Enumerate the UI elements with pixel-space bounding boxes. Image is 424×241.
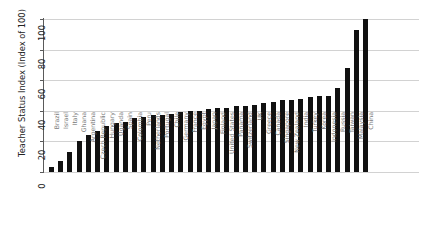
x-tick-label: Panama <box>238 112 244 174</box>
x-tick-label: Ghana <box>81 112 87 174</box>
x-tick-label: Switzerland <box>247 112 253 174</box>
y-tick-label-40: 40 <box>37 112 47 138</box>
x-tick-label: Egypt <box>201 112 207 174</box>
x-tick-label: Italy <box>72 112 78 174</box>
x-tick-label: United States <box>229 112 235 174</box>
x-tick-label: Hungary <box>109 112 115 174</box>
x-tick-label: France <box>192 112 198 174</box>
x-tick-label: Greece <box>266 112 272 174</box>
x-tick-label: Indonesia <box>331 112 337 174</box>
x-tick-label: New Zealand <box>294 112 300 174</box>
y-tick-label-20: 20 <box>37 142 47 168</box>
x-tick-label: Brazil <box>54 112 60 174</box>
x-tick-label: Spain <box>127 112 133 174</box>
x-tick-label: Turkey <box>312 112 318 174</box>
y-tick-label-0: 0 <box>37 173 47 199</box>
x-tick-label: Canada <box>275 112 281 174</box>
x-tick-label: Korea <box>321 112 327 174</box>
teacher-status-index-bar-chart: Teacher Status Index (Index of 100) Braz… <box>0 0 424 241</box>
x-tick-label: Netherlands <box>155 112 161 174</box>
x-tick-label: Singapore <box>284 112 290 174</box>
x-tick-label: Japan <box>211 112 217 174</box>
x-tick-label: Germany <box>183 112 189 174</box>
x-tick-label: Taiwan <box>349 112 355 174</box>
x-tick-label: India <box>303 112 309 174</box>
x-tick-label: Finland <box>220 112 226 174</box>
y-axis-title: Teacher Status Index (Index of 100) <box>17 3 27 163</box>
x-tick-label: Czech Republic <box>100 112 106 174</box>
x-tick-label: Russia <box>340 112 346 174</box>
x-axis-tick-labels: BrazilIsraelItalyGhanaArgentinaCzech Rep… <box>44 174 419 241</box>
y-tick-label-100: 100 <box>37 20 47 46</box>
x-tick-label: Colombia <box>137 112 143 174</box>
x-tick-label: UK <box>257 112 263 174</box>
x-tick-label: China <box>368 112 374 174</box>
x-tick-label: Peru <box>146 112 152 174</box>
x-tick-label: Malaysia <box>358 112 364 174</box>
y-tick-label-80: 80 <box>37 51 47 77</box>
y-tick-label-60: 60 <box>37 81 47 107</box>
x-tick-label: Israel <box>63 112 69 174</box>
x-tick-label: Uganda <box>118 112 124 174</box>
x-tick-label: Argentina <box>90 112 96 174</box>
x-tick-label: Chile <box>174 112 180 174</box>
x-tick-label: Portugal <box>164 112 170 174</box>
